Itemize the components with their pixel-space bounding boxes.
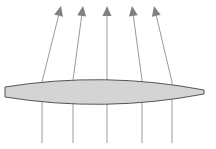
arrowhead-icon (129, 6, 138, 17)
refracted-ray (156, 16, 172, 82)
arrowhead-icon (103, 6, 112, 16)
arrowhead-icon (152, 6, 161, 17)
arrowhead-icon (77, 6, 86, 17)
refracted-ray (133, 16, 142, 80)
refracted-ray (42, 16, 59, 82)
lens-ray-diagram (0, 0, 216, 149)
arrowhead-icon (54, 6, 63, 17)
refracted-ray (73, 16, 82, 80)
refracted-rays (42, 6, 172, 82)
converging-lens (5, 80, 204, 105)
